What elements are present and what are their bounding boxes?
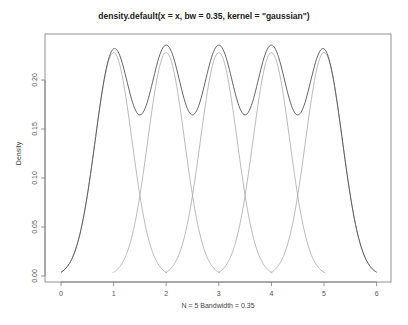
x-tick-label: 0 (59, 290, 63, 297)
density-curve (61, 45, 377, 272)
x-tick-label: 5 (322, 290, 326, 297)
kernel-component-curve (165, 53, 272, 273)
y-tick-label: 0.15 (31, 122, 38, 136)
x-tick-label: 6 (375, 290, 379, 297)
kernel-component-curve (113, 53, 220, 273)
y-axis: 0.000.050.100.150.20 (31, 73, 45, 283)
y-tick-label: 0.05 (31, 220, 38, 234)
plot-area: 0123456 0.000.050.100.150.20 (0, 0, 408, 325)
x-tick-label: 1 (112, 290, 116, 297)
x-axis: 0123456 (59, 282, 379, 297)
kernel-component-curves (61, 53, 377, 273)
y-tick-label: 0.20 (31, 73, 38, 87)
x-tick-label: 4 (269, 290, 273, 297)
x-tick-label: 2 (164, 290, 168, 297)
plot-frame (45, 34, 391, 282)
y-tick-label: 0.00 (31, 269, 38, 283)
y-tick-label: 0.10 (31, 171, 38, 185)
x-tick-label: 3 (217, 290, 221, 297)
kernel-component-curve (218, 53, 325, 273)
